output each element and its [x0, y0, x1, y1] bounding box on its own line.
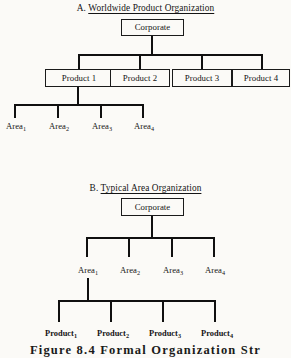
panel-b-product-name-4: Product: [201, 329, 230, 338]
panel-a-area-drop-4: [142, 104, 144, 118]
panel-a-product-drop-3: [201, 54, 203, 69]
panel-a-area-sub-1: 1: [23, 125, 26, 132]
panel-a-area-label-3[interactable]: Area3: [92, 122, 112, 131]
panel-a-area-drop-3: [100, 104, 102, 118]
panel-a-title-text: Worldwide Product Organization: [88, 3, 214, 13]
panel-b-product-sub-2: 2: [126, 332, 129, 339]
panel-b-area-label-3[interactable]: Area3: [163, 266, 183, 275]
panel-b-area-name-3: Area: [163, 265, 180, 275]
panel-a-area-drop-1: [14, 104, 16, 118]
panel-b-product-label-3[interactable]: Product3: [149, 330, 181, 338]
panel-a-area-name-3: Area: [92, 121, 109, 131]
panel-b-area-drop-1: [86, 237, 88, 257]
panel-a-product-box-3[interactable]: Product 3: [172, 69, 232, 87]
panel-b-product-label-2[interactable]: Product2: [97, 330, 129, 338]
panel-a-product-drop-2: [139, 54, 141, 69]
panel-b-product-label-4[interactable]: Product4: [201, 330, 233, 338]
panel-b-product-name-3: Product: [149, 329, 178, 338]
panel-b-product-name-1: Product: [45, 329, 74, 338]
panel-a-product-label-1: Product 1: [62, 74, 96, 83]
panel-a-area-name-4: Area: [134, 121, 151, 131]
panel-b-area-drop-4: [213, 237, 215, 257]
panel-b-product-label-1[interactable]: Product1: [45, 330, 77, 338]
panel-b-corporate-label: Corporate: [135, 203, 171, 212]
panel-b-title-text: Typical Area Organization: [101, 183, 202, 193]
panel-b-product-sub-3: 3: [178, 332, 181, 339]
panel-b-area1-stem: [87, 278, 89, 301]
panel-a-area-drop-2: [57, 104, 59, 118]
panel-b-product-sub-1: 1: [74, 332, 77, 339]
panel-a-product-drop-4: [261, 54, 263, 69]
panel-b-label: B.: [90, 183, 99, 193]
panel-a-product-label-4: Product 4: [244, 74, 278, 83]
panel-b-area-name-4: Area: [205, 265, 222, 275]
panel-b-product-name-2: Product: [97, 329, 126, 338]
panel-a-area-name-2: Area: [49, 121, 66, 131]
panel-a-product-bus: [78, 54, 263, 56]
panel-b-corporate-box[interactable]: Corporate: [121, 198, 184, 216]
panel-a-area-label-1[interactable]: Area1: [6, 122, 26, 131]
panel-a-product-box-1[interactable]: Product 1: [45, 69, 113, 87]
panel-b-area-sub-3: 3: [180, 269, 183, 276]
panel-b-area-label-2[interactable]: Area2: [120, 266, 140, 275]
panel-b-area-sub-1: 1: [95, 269, 98, 276]
panel-b-area-sub-4: 4: [222, 269, 225, 276]
panel-a-area-sub-3: 3: [109, 125, 112, 132]
panel-a-area-label-2[interactable]: Area2: [49, 122, 69, 131]
panel-a-area-sub-2: 2: [66, 125, 69, 132]
panel-a-label: A.: [77, 3, 86, 13]
panel-a-product1-stem: [77, 87, 79, 105]
panel-a-corporate-label: Corporate: [135, 23, 171, 32]
panel-b-area-drop-2: [128, 237, 130, 257]
panel-b-product-sub-4: 4: [230, 332, 233, 339]
panel-b-area-label-4[interactable]: Area4: [205, 266, 225, 275]
panel-a-corporate-box[interactable]: Corporate: [121, 19, 184, 36]
panel-b-product-drop-3: [162, 300, 164, 322]
panel-b-area-label-1[interactable]: Area1: [78, 266, 98, 275]
panel-a-area-name-1: Area: [6, 121, 23, 131]
panel-b-area-name-1: Area: [78, 265, 95, 275]
panel-a-area-label-4[interactable]: Area4: [134, 122, 154, 131]
panel-b-product-bus: [58, 300, 216, 302]
figure-caption: Figure 8.4 Formal Organization Str: [0, 343, 291, 358]
panel-a-product-box-4[interactable]: Product 4: [232, 69, 290, 87]
panel-a-corporate-stem: [151, 36, 153, 55]
panel-a-product-label-2: Product 2: [123, 74, 157, 83]
panel-a-title: A. Worldwide Product Organization: [0, 3, 291, 13]
panel-a-product-box-2[interactable]: Product 2: [110, 69, 170, 87]
panel-a-area-sub-4: 4: [151, 125, 154, 132]
panel-a-area-bus: [14, 104, 144, 106]
panel-b-corporate-stem: [151, 216, 153, 238]
panel-a-product-label-3: Product 3: [185, 74, 219, 83]
panel-b-area-drop-3: [171, 237, 173, 257]
panel-a-product-drop-1: [78, 54, 80, 69]
panel-b-area-name-2: Area: [120, 265, 137, 275]
panel-b-title: B. Typical Area Organization: [0, 183, 291, 193]
panel-b-product-drop-2: [110, 300, 112, 322]
panel-b-area-sub-2: 2: [137, 269, 140, 276]
panel-b-product-drop-1: [58, 300, 60, 322]
panel-b-area-bus: [86, 237, 214, 239]
panel-b-product-drop-4: [214, 300, 216, 322]
